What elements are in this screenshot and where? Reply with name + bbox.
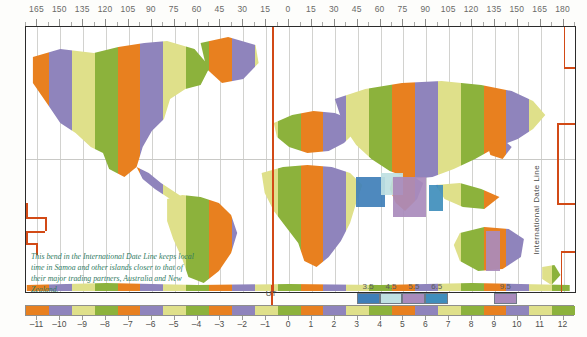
offset-label: –11 [30, 319, 44, 329]
date-line-segment [45, 217, 47, 231]
half-hour-region-myanmar-6-5 [429, 185, 443, 211]
offset-label: 3 [354, 319, 359, 329]
longitude-tick [563, 19, 564, 26]
timezone-stripe [575, 27, 576, 292]
date-line-segment [26, 231, 28, 243]
offset-label: 12 [558, 319, 567, 329]
timezone-stripe [575, 27, 576, 292]
offset-label: –5 [169, 319, 178, 329]
half-hour-label: 5.5 [408, 282, 419, 291]
longitude-label: 105 [441, 4, 456, 14]
longitude-tick [334, 19, 335, 26]
offset-label: –1 [260, 319, 269, 329]
offset-label: –8 [100, 319, 109, 329]
prime-meridian-line [272, 27, 274, 292]
longitude-label: 90 [146, 4, 156, 14]
longitude-label: 180 [555, 4, 570, 14]
longitude-tick [197, 19, 198, 26]
longitude-label: 75 [169, 4, 179, 14]
timezone-stripe [575, 27, 576, 292]
longitude-tick [471, 19, 472, 26]
offset-band-swatch [26, 306, 49, 315]
offset-color-bar [25, 305, 574, 316]
longitude-label: 75 [398, 4, 408, 14]
offset-band-swatch [438, 306, 461, 315]
half-hour-label: 9.5 [500, 282, 511, 291]
offset-label: –9 [77, 319, 86, 329]
timezone-stripe [575, 27, 576, 292]
longitude-tick [242, 19, 243, 26]
longitude-tick [380, 19, 381, 26]
offset-label: 11 [535, 319, 544, 329]
offset-band-swatch [506, 306, 529, 315]
longitude-label: 135 [75, 4, 90, 14]
offset-band-swatch [72, 306, 95, 315]
half-hour-swatch [357, 293, 380, 304]
longitude-tick [36, 19, 37, 26]
offset-band-swatch [461, 306, 484, 315]
timezone-stripe [575, 27, 576, 292]
date-line-segment [557, 123, 576, 125]
half-hour-label: 3.5 [363, 282, 374, 291]
longitude-label: 30 [329, 4, 339, 14]
longitude-tick [357, 19, 358, 26]
longitude-label: 105 [121, 4, 136, 14]
date-line-segment [557, 123, 559, 203]
ut-label: UT [266, 289, 277, 298]
offset-band-swatch [118, 306, 141, 315]
timezone-stripe [575, 27, 576, 292]
longitude-tick [402, 19, 403, 26]
longitude-tick [540, 19, 541, 26]
offset-band-swatch [415, 306, 438, 315]
longitude-tick [82, 19, 83, 26]
date-line-segment [26, 217, 45, 219]
longitude-label: 90 [420, 4, 430, 14]
offset-band-swatch [392, 306, 415, 315]
longitude-label: 150 [52, 4, 67, 14]
longitude-tick [59, 19, 60, 26]
longitude-label: 135 [487, 4, 502, 14]
offset-label: –7 [123, 319, 132, 329]
offset-label: 7 [446, 319, 451, 329]
offset-band-swatch [323, 306, 346, 315]
offset-label: 0 [286, 319, 291, 329]
longitude-label: 0 [286, 4, 291, 14]
offset-band-swatch [552, 306, 575, 315]
half-hour-swatch [380, 293, 403, 304]
date-line-segment [26, 243, 36, 245]
timezone-stripe [575, 27, 576, 292]
offset-band-swatch [95, 306, 118, 315]
longitude-label: 60 [192, 4, 202, 14]
longitude-label: 30 [237, 4, 247, 14]
longitude-label: 165 [29, 4, 44, 14]
longitude-tick [105, 19, 106, 26]
offset-band-swatch [369, 306, 392, 315]
offset-label: 5 [400, 319, 405, 329]
offset-label: 1 [309, 319, 314, 329]
longitude-label: 45 [352, 4, 362, 14]
half-hour-label: 6.5 [431, 282, 442, 291]
timezone-stripe [575, 27, 576, 292]
half-hour-swatch [494, 293, 517, 304]
longitude-tick [265, 19, 266, 26]
offset-band-swatch [140, 306, 163, 315]
longitude-tick [517, 19, 518, 26]
offset-label: 9 [492, 319, 497, 329]
longitude-tick [151, 19, 152, 26]
offset-band-swatch [529, 306, 552, 315]
longitude-tick [311, 19, 312, 26]
offset-band-swatch [346, 306, 369, 315]
longitude-tick [128, 19, 129, 26]
longitude-label: 120 [464, 4, 479, 14]
offset-band-swatch [255, 306, 278, 315]
date-line-segment [26, 231, 45, 233]
offset-label: 6 [423, 319, 428, 329]
offset-label: –2 [238, 319, 247, 329]
longitude-tick [219, 19, 220, 26]
offset-label: 10 [512, 319, 521, 329]
offset-band-swatch [186, 306, 209, 315]
utc-offset-legend: 3.54.55.56.59.5 –11–10–9–8–7–6–5–4–3–2–1… [25, 291, 574, 337]
longitude-tick [425, 19, 426, 26]
date-line-segment [564, 27, 566, 67]
timezone-stripe [575, 27, 576, 292]
